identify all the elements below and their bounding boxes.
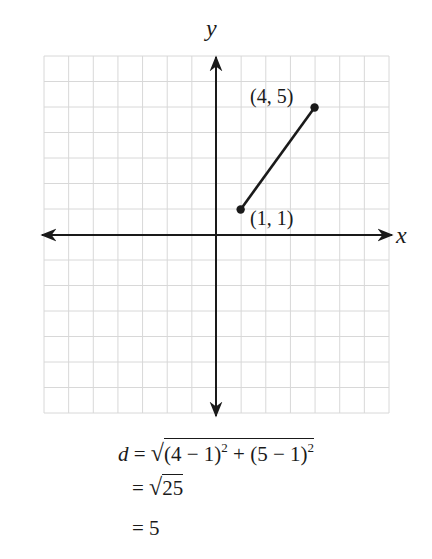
exponent-2: 2 — [308, 440, 315, 455]
formula-line-2: = √25 — [132, 474, 183, 501]
term-1: (4 − 1) — [164, 442, 221, 466]
formula-line-3: = 5 — [132, 516, 160, 541]
term-2: + (5 − 1) — [228, 442, 308, 466]
radical-icon: √ — [151, 440, 164, 466]
formula-line-1: d = √(4 − 1)2 + (5 − 1)2 — [118, 438, 314, 467]
square-root: √(4 − 1)2 + (5 − 1)2 — [151, 438, 314, 467]
point-1-1 — [236, 205, 244, 213]
distance-variable: d — [118, 442, 129, 466]
coordinate-plane: x y (1, 1) (4, 5) — [0, 0, 432, 430]
x-axis-label: x — [395, 222, 407, 248]
equals-sign: = — [134, 442, 146, 466]
square-root: √25 — [149, 474, 183, 501]
radical-icon: √ — [149, 474, 162, 500]
point-label-4-5: (4, 5) — [250, 85, 293, 108]
equals-sign: = — [132, 516, 144, 540]
equals-sign: = — [132, 476, 144, 500]
distance-result: 5 — [149, 516, 160, 540]
point-label-1-1: (1, 1) — [250, 207, 293, 230]
point-4-5 — [310, 103, 318, 111]
radicand: (4 − 1)2 + (5 − 1)2 — [164, 438, 314, 467]
y-axis-label: y — [204, 15, 217, 41]
radicand: 25 — [162, 474, 183, 501]
